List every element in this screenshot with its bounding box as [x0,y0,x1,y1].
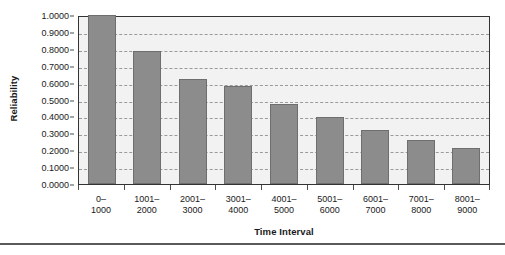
bar-slot [307,17,353,184]
x-tick-label-line1: 6001– [363,194,388,204]
x-tick-label: 3001–4000 [215,185,261,215]
bar-slot [216,17,262,184]
y-tick-label: 0.4000 [41,112,69,122]
x-tick-label-line2: 9000 [444,205,490,216]
y-tick-mark [70,185,74,186]
x-tick-label-line2: 2000 [124,205,170,216]
y-tick-mark [70,151,74,152]
x-tick-label: 5001–6000 [307,185,353,215]
bar[interactable] [224,86,252,184]
x-tick-slot: 5001–6000 [307,185,353,225]
bar-slot [444,17,490,184]
bar[interactable] [270,104,298,184]
x-tick-label-line2: 7000 [353,205,399,216]
bottom-divider [0,243,505,245]
x-tick-label-line1: 8001– [455,194,480,204]
x-tick-mark [261,185,262,190]
bar[interactable] [407,140,435,184]
y-tick-label: 1.0000 [41,11,69,21]
y-axis-title: Reliability [0,0,28,196]
x-tick-slot: 8001–9000 [444,185,490,225]
x-tick-slot: 0–1000 [78,185,124,225]
bar[interactable] [133,51,161,185]
y-axis-tick-labels: 1.00000.90000.80000.70000.60000.50000.40… [26,16,74,185]
y-tick-mark [70,66,74,67]
x-tick-mark [444,185,445,190]
bar-slot [79,17,125,184]
bar-series [79,17,489,184]
y-tick-label: 0.1000 [41,163,69,173]
y-tick-mark [70,49,74,50]
y-tick-mark [70,16,74,17]
y-tick-label: 0.7000 [41,62,69,72]
y-tick-label: 0.9000 [41,28,69,38]
y-tick-mark [70,83,74,84]
y-tick-mark [70,134,74,135]
x-axis-title: Time Interval [78,226,490,237]
x-tick-label: 8001–9000 [444,185,490,215]
x-tick-label-line1: 5001– [317,194,342,204]
x-tick-slot: 7001–8000 [398,185,444,225]
x-tick-label: 0–1000 [78,185,124,215]
x-tick-label-line2: 3000 [170,205,216,216]
x-tick-slot: 1001–2000 [124,185,170,225]
bar-slot [398,17,444,184]
y-tick-label: 0.5000 [41,96,69,106]
y-tick-mark [70,32,74,33]
x-tick-label-line2: 8000 [398,205,444,216]
x-tick-label: 6001–7000 [353,185,399,215]
reliability-bar-chart-figure: Reliability 1.00000.90000.80000.70000.60… [0,0,505,255]
x-tick-mark [170,185,171,190]
bar[interactable] [179,79,207,184]
x-tick-mark [398,185,399,190]
x-tick-slot: 3001–4000 [215,185,261,225]
x-tick-mark [124,185,125,190]
bar[interactable] [88,15,116,184]
y-tick-label: 0.8000 [41,45,69,55]
x-tick-mark [307,185,308,190]
bar-slot [170,17,216,184]
x-tick-label-line1: 2001– [180,194,205,204]
x-tick-label-line2: 1000 [78,205,124,216]
bar-slot [352,17,398,184]
x-tick-slot: 2001–3000 [170,185,216,225]
plot-area [78,16,490,185]
y-tick-label: 0.2000 [41,146,69,156]
x-tick-label-line2: 6000 [307,205,353,216]
x-tick-mark [489,185,490,190]
bar[interactable] [361,130,389,184]
x-tick-label: 4001–5000 [261,185,307,215]
x-tick-label: 2001–3000 [170,185,216,215]
y-tick-mark [70,117,74,118]
bar[interactable] [452,148,480,184]
y-tick-label: 0.3000 [41,129,69,139]
x-axis-tick-labels: 0–10001001–20002001–30003001–40004001–50… [78,185,490,225]
x-tick-mark [215,185,216,190]
x-tick-label-line1: 3001– [226,194,251,204]
x-tick-label-line1: 0– [96,194,106,204]
y-tick-label: 0.0000 [41,180,69,190]
x-tick-mark [353,185,354,190]
x-tick-label-line1: 7001– [409,194,434,204]
y-tick-mark [70,100,74,101]
x-tick-label-line2: 5000 [261,205,307,216]
bar-slot [125,17,171,184]
x-tick-label-line2: 4000 [215,205,261,216]
y-tick-mark [70,168,74,169]
x-tick-label-line1: 1001– [134,194,159,204]
x-tick-mark [78,185,79,190]
x-tick-label: 1001–2000 [124,185,170,215]
bar-slot [261,17,307,184]
x-tick-slot: 4001–5000 [261,185,307,225]
y-tick-label: 0.6000 [41,79,69,89]
x-tick-label: 7001–8000 [398,185,444,215]
x-tick-slot: 6001–7000 [353,185,399,225]
bar[interactable] [316,117,344,184]
y-axis-title-label: Reliability [9,75,20,121]
x-tick-label-line1: 4001– [272,194,297,204]
